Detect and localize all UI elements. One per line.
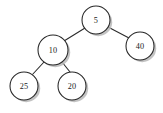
tree-nodes-group: 510402520 (10, 6, 156, 102)
tree-node: 25 (10, 72, 40, 102)
tree-edge (108, 27, 129, 38)
node-label: 25 (20, 82, 29, 91)
tree-edge (64, 28, 85, 41)
node-label: 5 (94, 16, 98, 25)
tree-node: 5 (82, 6, 112, 36)
node-label: 10 (49, 46, 58, 55)
tree-node: 20 (58, 72, 88, 102)
node-label: 40 (136, 42, 145, 51)
tree-node: 40 (126, 32, 156, 62)
binary-tree-canvas: 510402520 (0, 0, 163, 113)
binary-tree-figure: 510402520 (0, 0, 163, 113)
node-label: 20 (68, 82, 77, 91)
tree-edge (32, 62, 44, 75)
